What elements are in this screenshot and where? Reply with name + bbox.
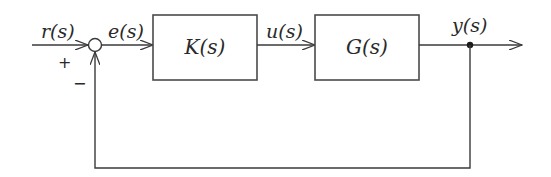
output-signal-label: y(s)	[451, 14, 487, 36]
plant-block-label: G(s)	[346, 35, 388, 59]
reference-signal-label: r(s)	[41, 20, 75, 42]
plus-sign: +	[58, 53, 71, 72]
control-signal-label: u(s)	[266, 20, 303, 42]
controller-block-label: K(s)	[184, 35, 226, 59]
error-signal-label: e(s)	[108, 20, 144, 42]
minus-sign: −	[73, 74, 86, 93]
block-diagram: r(s) + − e(s) K(s) u(s) G(s) y(s)	[0, 0, 551, 177]
summing-junction	[89, 39, 102, 52]
